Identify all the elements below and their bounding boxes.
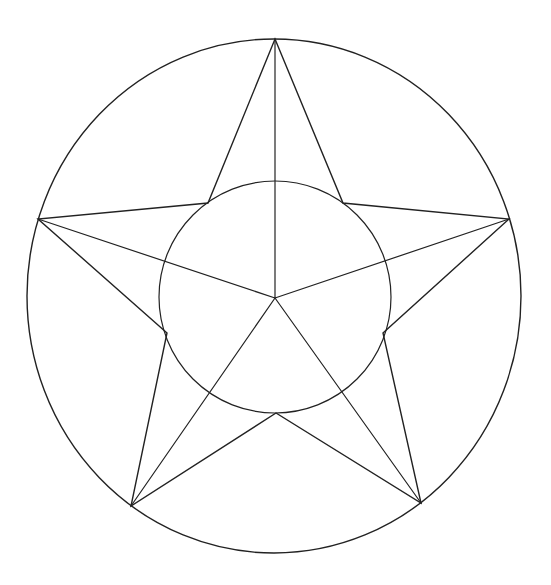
spoke-left: [38, 219, 275, 298]
center-spokes: [38, 39, 509, 506]
spoke-bottom-right: [275, 298, 421, 503]
star-outline: [38, 39, 509, 506]
outer-circle: [27, 39, 521, 553]
spoke-right: [275, 219, 509, 298]
star-in-circle-diagram: [0, 0, 551, 585]
